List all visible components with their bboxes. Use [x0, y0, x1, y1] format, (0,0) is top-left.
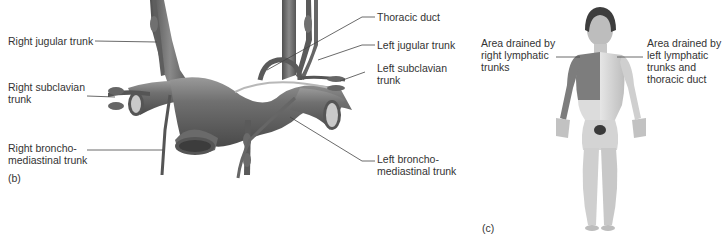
venous-junction-illustration — [108, 0, 352, 178]
body-figure-illustration — [556, 7, 646, 231]
label-right-subclavian-trunk: Right subclavian trunk — [8, 81, 85, 105]
label-left-bronchomediastinal-trunk: Left broncho- mediastinal trunk — [377, 153, 456, 177]
label-thoracic-duct: Thoracic duct — [377, 11, 440, 23]
label-right-bronchomediastinal-trunk: Right broncho- mediastinal trunk — [8, 142, 87, 166]
diagram-artwork — [0, 0, 725, 241]
label-right-drainage-area: Area drained by right lymphatic trunks — [481, 37, 555, 73]
label-right-jugular-trunk: Right jugular trunk — [8, 35, 93, 47]
label-left-drainage-area: Area drained by left lymphatic trunks an… — [647, 37, 721, 85]
panel-tag-c: (c) — [482, 222, 494, 234]
label-left-jugular-trunk: Left jugular trunk — [377, 39, 455, 51]
panel-tag-b: (b) — [8, 172, 21, 184]
label-left-subclavian-trunk: Left subclavian trunk — [377, 62, 447, 86]
